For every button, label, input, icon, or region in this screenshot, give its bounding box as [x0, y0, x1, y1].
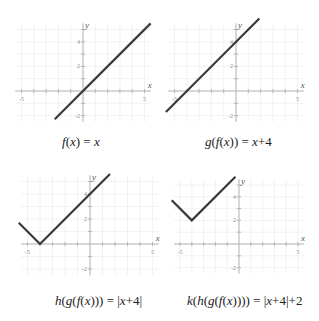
x-tick-label: -5: [178, 249, 183, 255]
y-axis-label: y: [240, 176, 245, 186]
caption-k: k(h(g(f(x)))) = |x+4|+2: [187, 293, 302, 309]
y-tick-label: 4: [233, 194, 236, 200]
plot-k: 5-524-2xy: [0, 0, 319, 321]
axes: [174, 179, 304, 273]
y-tick-label: 2: [233, 217, 236, 223]
y-tick-label: -2: [231, 265, 236, 271]
x-axis-label: x: [300, 233, 305, 243]
x-tick-label: 5: [297, 249, 300, 255]
